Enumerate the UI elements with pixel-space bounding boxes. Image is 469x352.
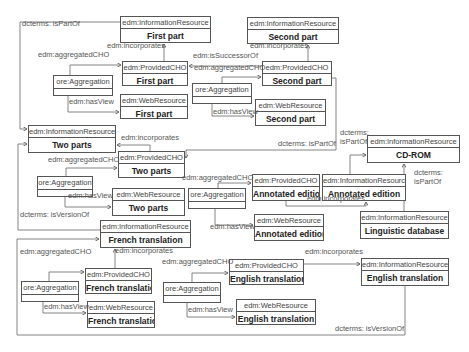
edge-label: edm:aggregatedCHO xyxy=(194,63,265,72)
edge-label: dcterms: isPartOf xyxy=(278,139,336,148)
node-agg-annot: ore:Aggregation xyxy=(188,188,246,209)
edge-label: edm:hasView xyxy=(69,97,114,106)
node-class-label: edm:InformationResource xyxy=(323,175,405,187)
node-class-label: edm:WebResource xyxy=(237,300,315,312)
edge-label: edm:aggregatedCHO xyxy=(38,50,109,59)
node-name-label: Linguistic database xyxy=(361,224,448,238)
node-class-label: ore:Aggregation xyxy=(193,84,251,97)
node-ir-ling: edm:InformationResourceLinguistic databa… xyxy=(360,211,449,239)
node-name-label xyxy=(54,89,112,97)
node-name-label: First part xyxy=(121,107,187,121)
node-cho-french: edm:ProvidedCHOFrench translation xyxy=(85,268,152,294)
node-class-label: ore:Aggregation xyxy=(189,189,245,202)
node-class-label: edm:ProvidedCHO xyxy=(86,269,151,281)
edge-label: dcterms: xyxy=(340,128,369,137)
node-ir-second: edm:InformationResourceSecond part xyxy=(247,17,339,44)
node-wr-two: edm:WebResourceTwo parts xyxy=(112,188,185,216)
node-class-label: edm:ProvidedCHO xyxy=(263,62,331,74)
node-name-label xyxy=(164,296,220,304)
node-name-label: Two parts xyxy=(29,138,115,152)
node-wr-french: edm:WebResourceFrench translation xyxy=(87,301,155,328)
node-wr-first: edm:WebResourceFirst part xyxy=(120,94,188,119)
node-name-label xyxy=(193,97,251,105)
node-agg-french: ore:Aggregation xyxy=(21,281,79,302)
node-class-label: edm:InformationResource xyxy=(248,18,338,30)
node-ir-two: edm:InformationResourceTwo parts xyxy=(28,125,116,153)
node-name-label xyxy=(189,202,245,210)
node-cho-two: edm:ProvidedCHOTwo parts xyxy=(118,151,185,178)
node-name-label: French translation xyxy=(88,314,154,328)
node-class-label: edm:ProvidedCHO xyxy=(253,175,319,187)
edge-label: dcterms: isVersionOf xyxy=(20,210,89,219)
node-ir-english: edm:InformationResourceEnglish translati… xyxy=(361,258,449,286)
node-wr-annot: edm:WebResourceAnnotated edition xyxy=(254,214,324,241)
node-class-label: ore:Aggregation xyxy=(164,283,220,296)
node-class-label: edm:InformationResource xyxy=(29,126,115,138)
node-name-label: French translation xyxy=(101,233,190,247)
node-class-label: edm:ProvidedCHO xyxy=(119,152,184,164)
node-class-label: ore:Aggregation xyxy=(22,282,78,295)
node-name-label: English translation xyxy=(362,271,448,285)
node-name-label: Annotated edition xyxy=(255,227,323,241)
edge-label: isPartOf xyxy=(340,137,367,146)
edge-label: edm:aggregatedCHO xyxy=(162,257,233,266)
edge-label: edm:hasView xyxy=(213,107,258,116)
node-class-label: edm:WebResource xyxy=(88,302,154,314)
edge-label: isPartOf xyxy=(414,177,441,186)
node-class-label: edm:InformationResource xyxy=(362,259,448,271)
edge-label: edm:aggregatedCHO xyxy=(182,173,253,182)
edge-label: edm:hasView xyxy=(188,305,233,314)
edge-label: dcterms: xyxy=(414,168,443,177)
edge-label: edm:incorporates xyxy=(107,41,165,50)
edge-label: edm:hasView xyxy=(68,191,113,200)
edge-label: edm:incorporates xyxy=(305,247,363,256)
node-name-label: Second part xyxy=(256,112,325,126)
edge-label: edm:hasView xyxy=(44,302,89,311)
edge-label: dcterms: isVersionOf xyxy=(335,324,404,333)
node-class-label: edm:WebResource xyxy=(121,95,187,107)
node-wr-second: edm:WebResourceSecond part xyxy=(255,99,326,126)
node-name-label: First part xyxy=(123,74,187,88)
node-cho-first: edm:ProvidedCHOFirst part xyxy=(122,61,188,86)
node-class-label: edm:WebResource xyxy=(255,215,323,227)
node-cho-english: edm:ProvidedCHOEnglish translation xyxy=(229,259,304,285)
node-name-label: Two parts xyxy=(113,201,184,215)
edge-label: edm:aggregatedCHO xyxy=(20,247,91,256)
node-name-label: English translation xyxy=(230,272,303,286)
node-ir-french: edm:InformationResourceFrench translatio… xyxy=(100,220,191,248)
node-name-label: English translation xyxy=(237,312,315,326)
node-class-label: edm:ProvidedCHO xyxy=(230,260,303,272)
node-name-label: Two parts xyxy=(119,164,184,178)
node-class-label: edm:WebResource xyxy=(113,189,184,201)
node-class-label: edm:InformationResource xyxy=(121,17,210,29)
edge-label: edm:aggregatedCHO xyxy=(48,155,119,164)
edge-label: edm:incorporates xyxy=(307,194,365,203)
node-class-label: edm:InformationResource xyxy=(101,221,190,233)
edge-label: edm:incorporates xyxy=(250,41,308,50)
node-cho-second: edm:ProvidedCHOSecond part xyxy=(262,61,332,86)
node-class-label: ore:Aggregation xyxy=(54,76,112,89)
node-name-label: Second part xyxy=(263,74,331,88)
edge-label: edm:hasView xyxy=(210,222,255,231)
node-ir-first: edm:InformationResourceFirst part xyxy=(120,16,211,43)
edge-label: edm:incorporates xyxy=(115,246,173,255)
node-class-label: edm:ProvidedCHO xyxy=(123,62,187,74)
node-wr-english: edm:WebResourceEnglish translation xyxy=(236,299,316,325)
node-agg-first: ore:Aggregation xyxy=(53,75,113,96)
node-class-label: edm:InformationResource xyxy=(368,136,459,148)
node-ir-cdrom: edm:InformationResourceCD-ROM xyxy=(367,135,460,163)
node-class-label: ore:Aggregation xyxy=(38,177,92,190)
node-agg-english: ore:Aggregation xyxy=(163,282,221,303)
node-class-label: edm:InformationResource xyxy=(361,212,448,224)
node-name-label: French translation xyxy=(86,281,151,295)
edge-label: dcterms: isPartOf xyxy=(22,19,80,28)
node-agg-second: ore:Aggregation xyxy=(192,83,252,104)
edge-label: edm:isSuccessorOf xyxy=(193,51,258,60)
node-name-label: CD-ROM xyxy=(368,148,459,162)
edge-label: edm:incorporates xyxy=(121,133,179,142)
node-class-label: edm:WebResource xyxy=(256,100,325,112)
